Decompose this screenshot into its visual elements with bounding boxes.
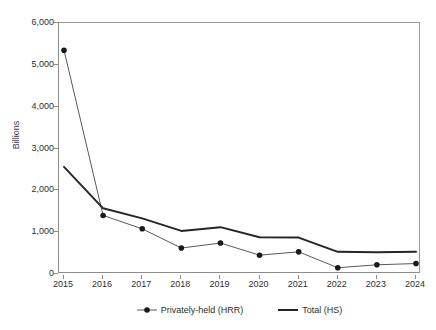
data-point-marker <box>139 226 145 232</box>
legend-label: Privately-held (HRR) <box>161 305 244 315</box>
series-canvas <box>59 23 421 274</box>
x-tick-label: 2024 <box>392 279 436 289</box>
series-line <box>64 50 416 268</box>
legend-line-marker-icon <box>136 305 158 315</box>
data-point-marker <box>335 265 341 271</box>
data-point-marker <box>296 249 302 255</box>
legend-item[interactable]: Total (HS) <box>277 305 342 315</box>
x-tick-mark <box>219 275 220 279</box>
x-tick-mark <box>337 275 338 279</box>
x-tick-mark <box>376 275 377 279</box>
x-tick-mark <box>102 275 103 279</box>
y-tick-label: 4,000 <box>8 101 54 111</box>
y-tick-label: 3,000 <box>8 143 54 153</box>
x-tick-mark <box>63 275 64 279</box>
x-tick-mark <box>180 275 181 279</box>
data-point-marker <box>179 245 185 251</box>
y-tick-label: 0 <box>8 268 54 278</box>
x-tick-mark <box>415 275 416 279</box>
data-point-marker <box>218 240 224 246</box>
data-point-marker <box>374 262 380 268</box>
y-tick-label: 6,000 <box>8 17 54 27</box>
chart-figure: Billions 01,0002,0003,0004,0005,0006,000… <box>0 0 436 330</box>
legend-item[interactable]: Privately-held (HRR) <box>136 305 244 315</box>
y-tick-label: 5,000 <box>8 59 54 69</box>
x-tick-mark <box>259 275 260 279</box>
y-axis-ticks: 01,0002,0003,0004,0005,0006,000 <box>0 22 54 273</box>
y-tick-label: 1,000 <box>8 226 54 236</box>
chart-legend: Privately-held (HRR)Total (HS) <box>58 300 420 320</box>
x-axis-ticks: 2015201620172018201920202021202220232024 <box>58 275 420 297</box>
data-point-marker <box>61 47 67 53</box>
legend-label: Total (HS) <box>302 305 342 315</box>
data-point-marker <box>257 252 263 258</box>
y-tick-mark <box>54 273 58 274</box>
plot-area <box>58 22 420 273</box>
x-tick-mark <box>298 275 299 279</box>
y-tick-label: 2,000 <box>8 184 54 194</box>
data-point-marker <box>413 261 419 267</box>
data-point-marker <box>100 213 106 219</box>
series-line <box>64 167 416 252</box>
legend-line-icon <box>277 305 299 315</box>
x-tick-mark <box>141 275 142 279</box>
